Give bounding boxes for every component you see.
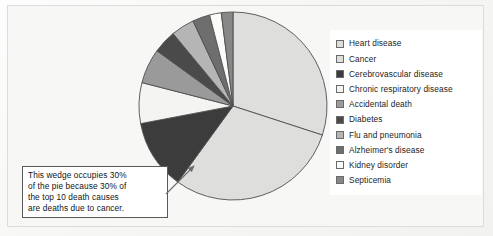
legend-swatch-icon — [336, 161, 344, 169]
legend-item[interactable]: Kidney disorder — [336, 158, 477, 173]
legend-item-label: Kidney disorder — [349, 161, 408, 169]
legend-item[interactable]: Accidental death — [336, 97, 477, 112]
legend-item-label: Chronic respiratory disease — [349, 85, 453, 93]
legend-swatch-icon — [336, 100, 344, 108]
legend-item-label: Alzheimer's disease — [349, 146, 424, 154]
legend-item-label: Cancer — [349, 55, 376, 63]
legend-swatch-icon — [336, 116, 344, 124]
legend-item[interactable]: Flu and pneumonia — [336, 127, 477, 142]
chart-page: Heart diseaseCancerCerebrovascular disea… — [0, 0, 493, 236]
legend-swatch-icon — [336, 131, 344, 139]
callout-text-line: of the pie because 30% of — [28, 181, 163, 192]
legend-swatch-icon — [336, 85, 344, 93]
callout-text-line: are deaths due to cancer. — [28, 203, 163, 214]
legend-item[interactable]: Cancer — [336, 51, 477, 66]
legend-item-label: Heart disease — [349, 39, 402, 47]
legend-swatch-icon — [336, 146, 344, 154]
legend-item[interactable]: Heart disease — [336, 36, 477, 51]
chart-legend: Heart diseaseCancerCerebrovascular disea… — [330, 30, 482, 195]
legend-item-label: Cerebrovascular disease — [349, 70, 443, 78]
legend-item-label: Septicemia — [349, 176, 391, 184]
legend-item[interactable]: Alzheimer's disease — [336, 142, 477, 157]
callout-text-line: This wedge occupies 30% — [28, 170, 163, 181]
callout-text-line: the top 10 death causes — [28, 192, 163, 203]
legend-item[interactable]: Chronic respiratory disease — [336, 82, 477, 97]
legend-item[interactable]: Cerebrovascular disease — [336, 66, 477, 81]
legend-swatch-icon — [336, 55, 344, 63]
annotation-callout: This wedge occupies 30%of the pie becaus… — [22, 166, 168, 218]
legend-swatch-icon — [336, 70, 344, 78]
legend-swatch-icon — [336, 176, 344, 184]
legend-item-label: Flu and pneumonia — [349, 131, 422, 139]
legend-swatch-icon — [336, 40, 344, 48]
legend-item[interactable]: Septicemia — [336, 173, 477, 188]
legend-item[interactable]: Diabetes — [336, 112, 477, 127]
legend-item-label: Accidental death — [349, 100, 412, 108]
legend-item-label: Diabetes — [349, 115, 383, 123]
